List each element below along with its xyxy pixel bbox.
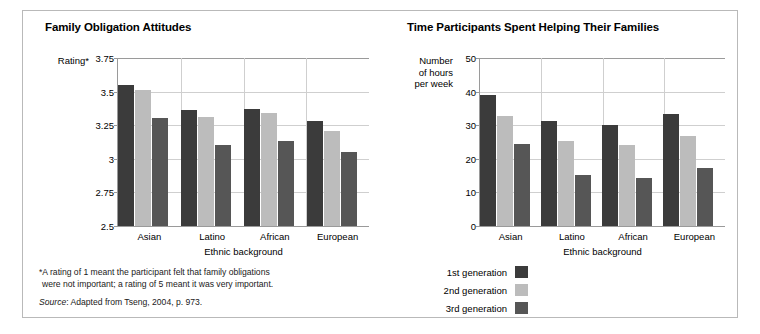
y-axis-tick-label: 40 — [465, 86, 476, 97]
y-axis-tick-label: 3 — [109, 153, 114, 164]
footnote-line-2: were not important; a rating of 5 meant … — [39, 279, 339, 291]
footnote-line-1: *A rating of 1 meant the participant fel… — [39, 267, 270, 277]
bar — [215, 145, 231, 226]
bar — [541, 121, 557, 226]
y-axis-tick-label: 3.5 — [101, 86, 114, 97]
y-axis-tick-label: 2.75 — [96, 187, 115, 198]
y-axis-label-right: Number of hours per week — [397, 55, 453, 90]
footnote: *A rating of 1 meant the participant fel… — [39, 267, 339, 309]
legend-swatch — [515, 302, 528, 314]
chart-legend: 1st generation2nd generation3rd generati… — [378, 263, 528, 317]
source-line: Source: Adapted from Tseng, 2004, p. 973… — [39, 297, 339, 309]
bar — [575, 175, 591, 226]
y-axis-label-left: Rating* — [33, 55, 89, 67]
legend-item: 2nd generation — [378, 281, 528, 299]
bar — [602, 125, 618, 226]
bar — [198, 117, 214, 226]
y-axis-tick-label: 50 — [465, 53, 476, 64]
bar — [324, 131, 340, 226]
x-axis-tick-label: African — [618, 231, 648, 242]
bar — [680, 136, 696, 226]
bar — [152, 118, 168, 226]
bar — [663, 114, 679, 226]
bar-group: African — [244, 58, 307, 226]
y-axis-tick-mark — [476, 226, 480, 227]
legend-swatch — [515, 284, 528, 296]
bar — [307, 121, 323, 226]
x-axis-tick-label: Latino — [559, 231, 585, 242]
legend-label: 2nd generation — [444, 285, 507, 296]
bar — [135, 90, 151, 226]
chart-title-left: Family Obligation Attitudes — [45, 21, 191, 33]
chart-panel-time-spent-helping-families: Time Participants Spent Helping Their Fa… — [395, 11, 739, 257]
y-axis-tick-label: 0 — [471, 221, 476, 232]
plot-area-left: Ethnic background 3.753.53.2532.752.5Asi… — [117, 58, 369, 227]
x-axis-tick-label: Asian — [499, 231, 523, 242]
bar — [261, 113, 277, 226]
bar-group: Latino — [181, 58, 244, 226]
bar-group: Asian — [480, 58, 541, 226]
bar — [636, 178, 652, 226]
bar — [244, 109, 260, 226]
x-axis-tick-label: European — [317, 231, 358, 242]
source-text: : Adapted from Tseng, 2004, p. 973. — [66, 297, 202, 307]
x-axis-label-left: Ethnic background — [118, 246, 369, 257]
chart-title-right: Time Participants Spent Helping Their Fa… — [407, 21, 659, 33]
legend-label: 1st generation — [447, 267, 507, 278]
y-axis-tick-label: 3.25 — [96, 120, 115, 131]
bar-group: African — [603, 58, 664, 226]
bar — [558, 141, 574, 226]
bar — [341, 152, 357, 226]
source-word: Source — [39, 297, 66, 307]
x-axis-label-right: Ethnic background — [480, 246, 725, 257]
y-axis-tick-mark — [114, 226, 118, 227]
bar-group: Asian — [118, 58, 181, 226]
y-axis-tick-label: 10 — [465, 187, 476, 198]
bar — [480, 95, 496, 226]
figure-frame: Family Obligation Attitudes Rating* Ethn… — [22, 10, 738, 318]
bar — [514, 144, 530, 226]
y-axis-tick-label: 2.5 — [101, 221, 114, 232]
y-axis-tick-label: 30 — [465, 120, 476, 131]
x-axis-tick-label: Asian — [137, 231, 161, 242]
bar-group: Latino — [541, 58, 602, 226]
bar — [497, 116, 513, 226]
bar-group: European — [664, 58, 725, 226]
legend-item: 3rd generation — [378, 299, 528, 317]
x-axis-tick-label: African — [260, 231, 290, 242]
legend-swatch — [515, 266, 528, 278]
bar — [181, 110, 197, 226]
y-axis-tick-label: 20 — [465, 153, 476, 164]
bar — [118, 85, 134, 226]
chart-panel-family-obligation-attitudes: Family Obligation Attitudes Rating* Ethn… — [27, 11, 393, 257]
charts-container: Family Obligation Attitudes Rating* Ethn… — [23, 11, 737, 257]
bar — [619, 145, 635, 226]
bar — [278, 141, 294, 226]
y-axis-tick-label: 3.75 — [96, 53, 115, 64]
x-axis-tick-label: European — [674, 231, 715, 242]
x-axis-tick-label: Latino — [199, 231, 225, 242]
bar — [697, 168, 713, 226]
legend-item: 1st generation — [378, 263, 528, 281]
bar-group: European — [306, 58, 369, 226]
plot-area-right: Ethnic background 50403020100AsianLatino… — [479, 58, 725, 227]
legend-label: 3rd generation — [446, 303, 507, 314]
